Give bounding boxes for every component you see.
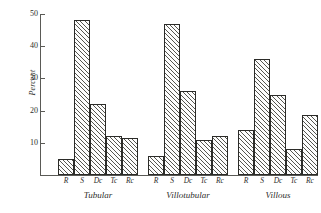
x-axis-tick-label: S [74, 177, 90, 185]
bar [74, 20, 90, 175]
plot-area [40, 14, 318, 175]
bar-group [148, 14, 228, 175]
y-axis-tick-label: 50 [14, 10, 38, 18]
x-axis-tick-label: Rc [122, 177, 138, 185]
x-axis-tick-label: Rc [212, 177, 228, 185]
x-axis-tick-label: R [58, 177, 74, 185]
bar-group [238, 14, 318, 175]
x-axis-tick-label: S [254, 177, 270, 185]
x-axis-tick-label: R [148, 177, 164, 185]
bar [90, 104, 106, 175]
bar [180, 91, 196, 175]
y-axis-title: Percent [28, 53, 37, 113]
bar-group-category-labels: RSDcTcRc [58, 177, 138, 185]
x-axis-tick-label: S [164, 177, 180, 185]
y-axis-tick-label: 40 [14, 42, 38, 50]
bar-group-label: Villotubular [148, 191, 228, 200]
bar [212, 136, 228, 175]
bar [270, 95, 286, 176]
bar-group-label: Villous [238, 191, 318, 200]
bar [302, 115, 318, 175]
bar-group [58, 14, 138, 175]
x-axis-tick-label: Dc [180, 177, 196, 185]
x-axis-tick-label: Dc [90, 177, 106, 185]
x-axis-tick-label: R [238, 177, 254, 185]
bar [148, 156, 164, 175]
y-axis-tick-label: 30 [14, 74, 38, 82]
x-axis-tick-label: Tc [196, 177, 212, 185]
bar [238, 130, 254, 175]
bar [58, 159, 74, 175]
bar [164, 24, 180, 175]
bar [106, 136, 122, 175]
y-axis-tick-label: 10 [14, 139, 38, 147]
bar [122, 138, 138, 175]
bar-group-label: Tubular [58, 191, 138, 200]
y-axis-tick-label: 20 [14, 107, 38, 115]
x-axis-tick-label: Dc [270, 177, 286, 185]
x-axis-tick-label: Rc [302, 177, 318, 185]
bar [196, 140, 212, 175]
bar-chart: Percent 1020304050 RSDcTcRcTubularRSDcTc… [0, 0, 321, 213]
bar [286, 149, 302, 175]
x-axis-tick-label: Tc [106, 177, 122, 185]
bar-group-category-labels: RSDcTcRc [148, 177, 228, 185]
x-axis-tick-label: Tc [286, 177, 302, 185]
bar [254, 59, 270, 175]
bar-group-category-labels: RSDcTcRc [238, 177, 318, 185]
